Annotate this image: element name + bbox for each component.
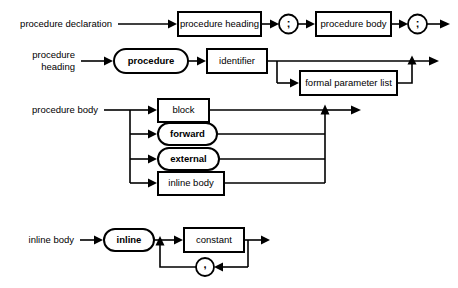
node-identifier-label: identifier bbox=[219, 55, 255, 66]
node-inline-body-label: inline body bbox=[168, 177, 214, 188]
node-procedure-keyword-label: procedure bbox=[128, 55, 174, 66]
rule-label-inline-body: inline body bbox=[29, 234, 75, 245]
node-comma-label: , bbox=[203, 258, 206, 270]
railroad-diagram-canvas: procedure declaration procedure heading … bbox=[0, 0, 458, 288]
rule-label-procedure-declaration: procedure declaration bbox=[20, 18, 112, 29]
node-semicolon-2-label: ; bbox=[416, 17, 420, 29]
node-constant-label: constant bbox=[196, 234, 232, 245]
node-forward-label: forward bbox=[170, 128, 205, 139]
node-block-label: block bbox=[172, 104, 194, 115]
node-inline-keyword-label: inline bbox=[117, 234, 142, 245]
node-formal-parameter-list-label: formal parameter list bbox=[305, 77, 392, 88]
rule-label-procedure-body: procedure body bbox=[32, 104, 98, 115]
node-procedure-heading-label: procedure heading bbox=[180, 18, 259, 29]
node-external-label: external bbox=[170, 153, 206, 164]
node-procedure-body-label: procedure body bbox=[320, 18, 386, 29]
rule-label-procedure-heading-line2: heading bbox=[41, 61, 75, 72]
railroad-diagram: procedure declaration procedure heading … bbox=[0, 0, 458, 288]
rule-label-procedure-heading-line1: procedure bbox=[32, 49, 75, 60]
node-semicolon-1-label: ; bbox=[287, 17, 291, 29]
